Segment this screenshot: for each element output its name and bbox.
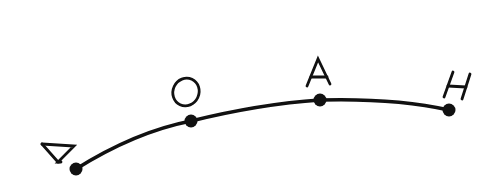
point-n (70, 163, 83, 176)
label-a (307, 59, 330, 86)
point-h (443, 104, 456, 117)
point-o (185, 115, 198, 128)
label-n (42, 144, 74, 162)
curve-path (76, 100, 449, 169)
label-o (168, 74, 203, 110)
point-a (314, 94, 327, 107)
label-h (444, 72, 470, 99)
curve-diagram: N O A H (0, 0, 499, 195)
